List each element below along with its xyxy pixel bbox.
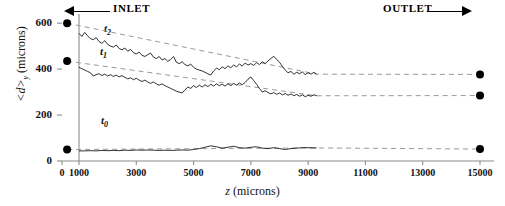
series-t1 — [63, 57, 484, 99]
marker-end-t2 — [476, 70, 484, 78]
trend-dashed-t2 — [67, 23, 480, 74]
chart-figure: INLET OUTLET <d>y (microns) z (microns) … — [0, 0, 505, 206]
plot-canvas — [0, 0, 505, 206]
curve-t2 — [79, 32, 317, 75]
series-t0 — [63, 145, 484, 153]
marker-end-t0 — [476, 145, 484, 153]
curve-t1 — [79, 67, 317, 96]
marker-start-t2 — [63, 19, 71, 27]
marker-start-t0 — [63, 146, 71, 154]
marker-start-t1 — [63, 57, 71, 65]
series-t2 — [63, 19, 484, 78]
marker-end-t1 — [476, 92, 484, 100]
